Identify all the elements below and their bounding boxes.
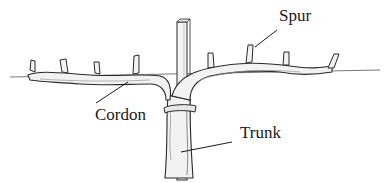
spur-label: Spur xyxy=(279,7,311,24)
spur-leader-line xyxy=(255,30,277,47)
left-cordon-arm xyxy=(28,72,171,100)
right-cordon-arm xyxy=(172,63,332,100)
cordon-label: Cordon xyxy=(95,106,146,123)
vine-illustration xyxy=(0,0,387,183)
vine-diagram: Spur Cordon Trunk xyxy=(0,0,387,183)
trunk-label: Trunk xyxy=(240,124,281,141)
